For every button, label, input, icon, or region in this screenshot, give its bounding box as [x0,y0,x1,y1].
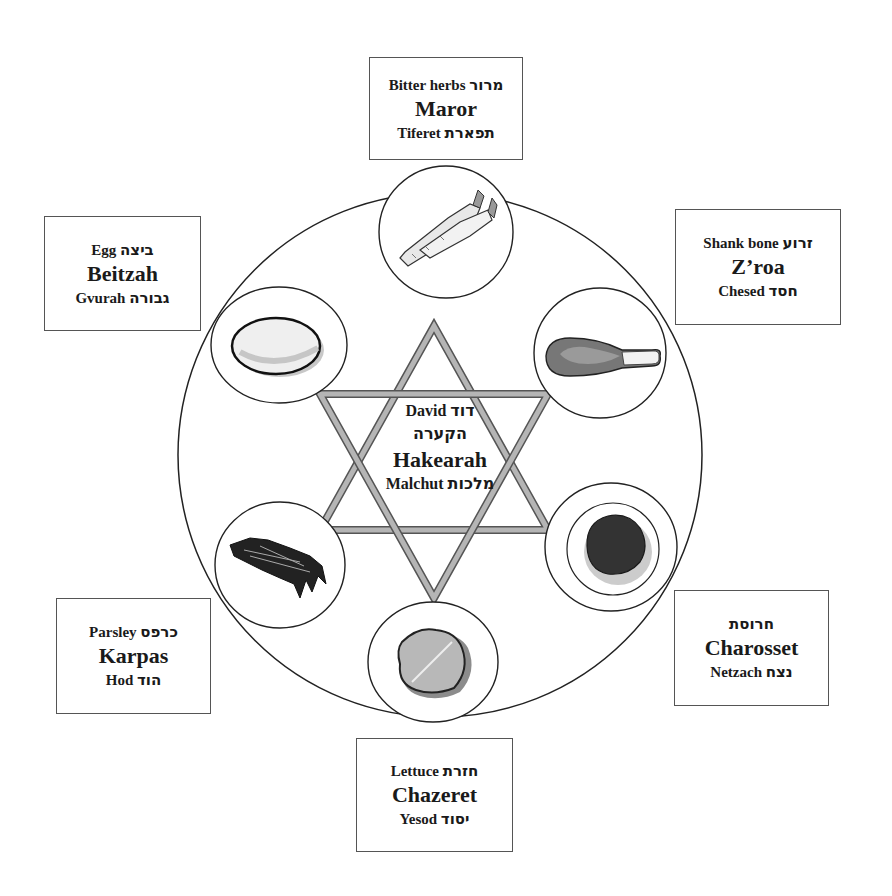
chazeret-hebrew: חזרת [443,762,479,780]
label-box-charosset: חרוסת Charosset Netzach נצח [674,590,829,706]
maror-name: Maror [415,95,477,123]
chazeret-name: Chazeret [392,781,477,809]
karpas-name: Karpas [99,642,169,670]
charosset-line3: Netzach נצח [710,662,792,682]
maror-plate [379,166,513,298]
chazeret-line3: Yesod יסוד [400,809,470,829]
label-box-maror: Bitter herbs מרור Maror Tiferet תפארת [369,57,523,160]
charosset-line1: חרוסת [729,614,774,634]
zroa-name: Z’roa [731,253,784,281]
maror-english: Bitter herbs [389,77,466,93]
charosset-name: Charosset [705,634,799,662]
maror-hebrew: מרור [469,76,503,94]
zroa-line1: Shank bone זרוע [703,233,812,253]
zroa-line3: Chesed חסד [718,281,798,301]
chazeret-plate [368,602,498,722]
karpas-sefirah: Hod [106,672,134,688]
charosset-sefirah-hebrew: נצח [766,663,793,681]
karpas-line1: Parsley כרפס [89,622,178,642]
chazeret-line1: Lettuce חזרת [391,761,479,781]
center-line4-english: Malchut [386,475,444,492]
beitzah-hebrew: ביצה [120,241,154,259]
karpas-line3: Hod הוד [106,670,162,690]
chazeret-english: Lettuce [391,763,439,779]
karpas-sefirah-hebrew: הוד [137,671,161,689]
charosset-plate [545,483,677,611]
label-box-chazeret: Lettuce חזרת Chazeret Yesod יסוד [356,738,513,852]
zroa-english: Shank bone [703,235,778,251]
charosset-hebrew: חרוסת [729,615,774,633]
chazeret-sefirah-hebrew: יסוד [441,810,470,828]
beitzah-line1: Egg ביצה [91,240,153,260]
center-line4-hebrew: מלכות [448,474,495,493]
chazeret-sefirah: Yesod [400,811,438,827]
center-name: Hakearah [340,446,540,474]
beitzah-english: Egg [91,242,116,258]
beitzah-line3: Gvurah גבורה [75,288,169,308]
label-box-karpas: Parsley כרפס Karpas Hod הוד [56,598,211,714]
beitzah-sefirah-hebrew: גבורה [129,289,169,307]
label-box-beitzah: Egg ביצה Beitzah Gvurah גבורה [44,216,201,331]
maror-line3: Tiferet תפארת [397,123,495,143]
zroa-sefirah: Chesed [718,283,765,299]
beitzah-name: Beitzah [87,260,158,288]
beitzah-plate [211,287,347,403]
maror-sefirah: Tiferet [397,125,441,141]
zroa-sefirah-hebrew: חסד [769,282,798,300]
zroa-plate [534,288,666,418]
karpas-plate [215,502,345,628]
center-line1-english: David [405,402,446,419]
center-line1: David דוד [340,400,540,422]
center-label: David דוד הקערה Hakearah Malchut מלכות [340,400,540,494]
charosset-sefirah: Netzach [710,664,762,680]
maror-line1: Bitter herbs מרור [389,75,504,95]
beitzah-sefirah: Gvurah [75,290,125,306]
maror-sefirah-hebrew: תפארת [445,124,495,142]
karpas-hebrew: כרפס [140,623,178,641]
karpas-english: Parsley [89,624,136,640]
center-line4: Malchut מלכות [340,474,540,494]
zroa-hebrew: זרוע [783,234,813,252]
label-box-zroa: Shank bone זרוע Z’roa Chesed חסד [675,209,841,325]
center-line2-hebrew: הקערה [340,422,540,446]
center-line1-hebrew: דוד [450,401,474,420]
